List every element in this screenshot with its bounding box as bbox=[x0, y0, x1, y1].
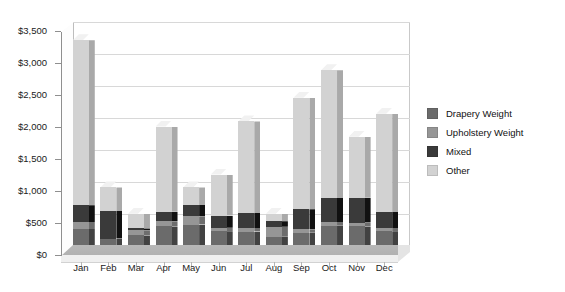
y-axis-tick-label: $3,500 bbox=[18, 26, 47, 36]
stacked-column-chart: $0$500$1,000$1,500$2,000$2,500$3,000$3,5… bbox=[0, 0, 565, 292]
y-axis-tick-label: $2,000 bbox=[18, 122, 47, 132]
legend-swatch bbox=[427, 108, 438, 119]
x-axis-ticks bbox=[61, 22, 410, 268]
legend-item[interactable]: Upholstery Weight bbox=[427, 123, 562, 142]
y-axis-tick-label: $1,000 bbox=[18, 186, 47, 196]
y-axis-tick-label: $0 bbox=[36, 250, 47, 260]
legend-label: Drapery Weight bbox=[446, 108, 512, 119]
legend-label: Mixed bbox=[446, 146, 471, 157]
legend-item[interactable]: Drapery Weight bbox=[427, 104, 562, 123]
legend-swatch bbox=[427, 127, 438, 138]
chart-legend: Drapery WeightUpholstery WeightMixedOthe… bbox=[427, 104, 562, 180]
plot-area bbox=[61, 22, 410, 255]
y-axis-tick-label: $500 bbox=[26, 218, 47, 228]
legend-swatch bbox=[427, 165, 438, 176]
y-axis-tick-label: $2,500 bbox=[18, 90, 47, 100]
y-axis-tick-label: $3,000 bbox=[18, 58, 47, 68]
legend-label: Upholstery Weight bbox=[446, 127, 523, 138]
y-axis-labels: $0$500$1,000$1,500$2,000$2,500$3,000$3,5… bbox=[0, 22, 55, 262]
legend-item[interactable]: Other bbox=[427, 161, 562, 180]
x-axis-tick-label: Dec bbox=[364, 262, 404, 274]
legend-label: Other bbox=[446, 165, 470, 176]
legend-swatch bbox=[427, 146, 438, 157]
x-axis-labels: JanFebMarAprMayJunJulAugSepOctNovDec bbox=[61, 262, 410, 280]
y-axis-tick-label: $1,500 bbox=[18, 154, 47, 164]
legend-item[interactable]: Mixed bbox=[427, 142, 562, 161]
